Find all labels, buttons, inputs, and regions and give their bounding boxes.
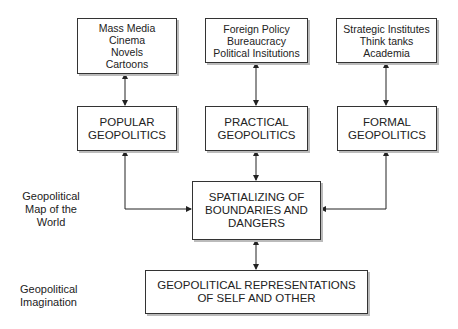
box-line: DANGERS bbox=[228, 217, 285, 230]
box-line: GEOPOLITICAL REPRESENTATIONS bbox=[157, 279, 356, 292]
box-line: GEOPOLITICS bbox=[218, 129, 296, 142]
box-line: BOUNDARIES AND bbox=[205, 204, 308, 217]
box-line: GEOPOLITICS bbox=[348, 129, 426, 142]
source-line: Political Insitutions bbox=[213, 47, 299, 59]
side-label-line: World bbox=[20, 216, 82, 229]
source-line: Novels bbox=[111, 46, 143, 58]
source-line: Bureaucracy bbox=[227, 35, 286, 47]
spatializing-box: SPATIALIZING OF BOUNDARIES AND DANGERS bbox=[192, 181, 321, 240]
representations-box: GEOPOLITICAL REPRESENTATIONS OF SELF AND… bbox=[145, 270, 368, 314]
side-label-line: Geopolitical bbox=[20, 190, 82, 203]
box-line: FORMAL bbox=[363, 116, 411, 129]
formal-sources-box: Strategic Institutes Think tanks Academi… bbox=[336, 18, 437, 63]
source-line: Academia bbox=[363, 47, 410, 59]
source-line: Strategic Institutes bbox=[343, 23, 429, 35]
source-line: Cinema bbox=[109, 34, 145, 46]
popular-sources-box: Mass Media Cinema Novels Cartoons bbox=[77, 18, 177, 74]
box-line: POPULAR bbox=[100, 116, 155, 129]
source-line: Cartoons bbox=[106, 58, 149, 70]
side-label-line: Geopolitical bbox=[20, 283, 90, 296]
popular-geopolitics-box: POPULAR GEOPOLITICS bbox=[77, 106, 177, 151]
source-line: Foreign Policy bbox=[223, 23, 290, 35]
side-label-line: Imagination bbox=[20, 296, 90, 309]
side-label-imagination: Geopolitical Imagination bbox=[20, 283, 90, 309]
practical-geopolitics-box: PRACTICAL GEOPOLITICS bbox=[205, 106, 308, 151]
box-line: OF SELF AND OTHER bbox=[197, 292, 315, 305]
box-line: SPATIALIZING OF bbox=[209, 191, 304, 204]
source-line: Think tanks bbox=[360, 35, 414, 47]
practical-sources-box: Foreign Policy Bureaucracy Political Ins… bbox=[205, 18, 308, 63]
formal-geopolitics-box: FORMAL GEOPOLITICS bbox=[337, 106, 437, 151]
box-line: PRACTICAL bbox=[224, 116, 289, 129]
source-line: Mass Media bbox=[99, 22, 156, 34]
box-line: GEOPOLITICS bbox=[88, 129, 166, 142]
side-label-line: Map of the bbox=[20, 203, 82, 216]
side-label-map: Geopolitical Map of the World bbox=[20, 190, 82, 229]
